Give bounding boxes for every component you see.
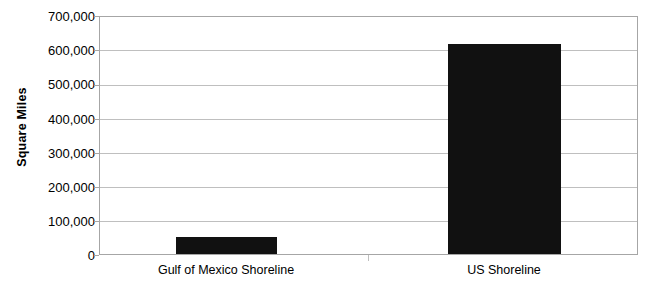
y-tick-label-200000: 200,000 bbox=[9, 181, 95, 194]
bar-us-shoreline bbox=[448, 44, 561, 254]
y-tick-label-0: 0 bbox=[9, 249, 95, 262]
y-tick-mark-0 bbox=[94, 255, 99, 256]
y-tick-label-600000: 600,000 bbox=[9, 44, 95, 57]
category-divider-tick bbox=[368, 255, 369, 261]
category-label-gulf-of-mexico-shoreline: Gulf of Mexico Shoreline bbox=[126, 263, 326, 277]
y-tick-label-300000: 300,000 bbox=[9, 147, 95, 160]
plot-area bbox=[99, 16, 638, 255]
y-tick-label-400000: 400,000 bbox=[9, 113, 95, 126]
y-tick-label-700000: 700,000 bbox=[9, 10, 95, 23]
y-tick-label-100000: 100,000 bbox=[9, 215, 95, 228]
bar-chart: Square Miles 700,000 600,000 500,000 400… bbox=[0, 0, 647, 289]
bar-gulf-of-mexico-shoreline bbox=[176, 237, 277, 254]
y-tick-label-500000: 500,000 bbox=[9, 78, 95, 91]
category-label-us-shoreline: US Shoreline bbox=[404, 263, 604, 277]
